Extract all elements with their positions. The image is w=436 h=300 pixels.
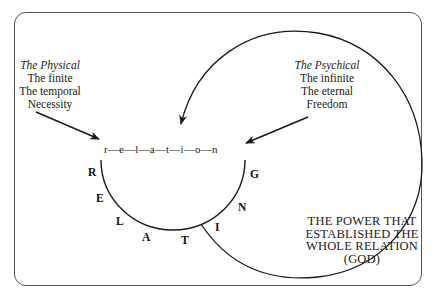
arc-letter-i: I <box>215 221 219 233</box>
arc-letter-l: L <box>116 215 124 227</box>
arc-letter-r: R <box>88 166 96 178</box>
arc-letter-g: G <box>250 168 259 180</box>
physical-arrow <box>36 112 99 139</box>
power-line-4: (GOD) <box>300 253 424 266</box>
physical-line-finite: The finite <box>10 72 90 85</box>
arc-letter-e: E <box>96 192 104 204</box>
arc-letter-t: T <box>181 234 189 246</box>
psychical-heading: The Psychical <box>286 59 368 72</box>
physical-block: The Physical The finite The temporal Nec… <box>10 59 90 111</box>
psychical-block: The Psychical The infinite The eternal F… <box>286 59 368 111</box>
relation-word: r—e—l—a—t—i—o—n <box>104 143 218 155</box>
psychical-line-infinite: The infinite <box>286 72 368 85</box>
psychical-line-freedom: Freedom <box>286 98 368 111</box>
arc-letter-n: N <box>238 201 246 213</box>
psychical-arrow <box>246 117 308 143</box>
power-label: THE POWER THAT ESTABLISHED THE WHOLE REL… <box>300 215 424 265</box>
power-line-3: WHOLE RELATION <box>300 240 424 253</box>
power-line-1: THE POWER THAT <box>300 215 424 228</box>
physical-heading: The Physical <box>10 59 90 72</box>
physical-line-necessity: Necessity <box>10 98 90 111</box>
arc-letter-a: A <box>142 231 150 243</box>
psychical-line-eternal: The eternal <box>286 85 368 98</box>
physical-line-temporal: The temporal <box>10 85 90 98</box>
